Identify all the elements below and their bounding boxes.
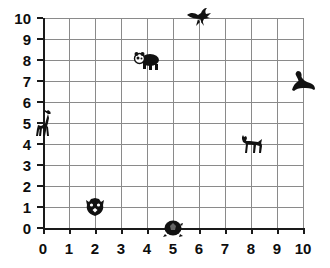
gridline-vertical [303, 18, 304, 228]
y-axis-tick-label: 8 [5, 53, 31, 68]
x-axis-tick-label: 5 [160, 241, 186, 256]
x-axis-tick-label: 1 [56, 241, 82, 256]
y-axis-tick-label: 1 [5, 200, 31, 215]
gridline-horizontal [43, 102, 303, 103]
y-axis-tick-label: 2 [5, 179, 31, 194]
x-axis-tick [303, 228, 305, 234]
gridline-horizontal [43, 60, 303, 61]
x-axis-tick-label: 0 [30, 241, 56, 256]
x-axis-tick-label: 9 [264, 241, 290, 256]
gridline-horizontal [43, 123, 303, 124]
x-axis-tick-label: 6 [186, 241, 212, 256]
x-axis-tick-label: 7 [212, 241, 238, 256]
x-axis-tick-label: 4 [134, 241, 160, 256]
gridline-horizontal [43, 165, 303, 166]
x-axis-tick-label: 3 [108, 241, 134, 256]
y-axis-tick-label: 9 [5, 32, 31, 47]
seal-icon [288, 66, 318, 96]
y-axis-tick-label: 0 [5, 221, 31, 236]
x-axis-tick-label: 2 [82, 241, 108, 256]
tiger-icon [80, 192, 110, 222]
giraffe-icon [28, 108, 58, 138]
gridline-horizontal [43, 18, 303, 19]
x-axis-tick-label: 10 [290, 241, 316, 256]
turtle-icon [158, 213, 188, 243]
gridline-horizontal [43, 39, 303, 40]
zebra-icon [236, 129, 266, 159]
gridline-horizontal [43, 81, 303, 82]
x-axis-tick-label: 8 [238, 241, 264, 256]
y-axis-tick-label: 3 [5, 158, 31, 173]
coordinate-grid-chart: 012345678910 012345678910 [0, 0, 330, 268]
y-axis-tick-label: 7 [5, 74, 31, 89]
gridline-horizontal [43, 186, 303, 187]
bird-icon [184, 3, 214, 33]
y-axis-tick-label: 10 [5, 11, 31, 26]
panda-icon [132, 45, 162, 75]
y-axis-tick-label: 4 [5, 137, 31, 152]
